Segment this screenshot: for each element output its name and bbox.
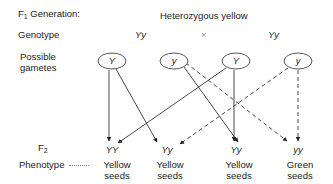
offspring-phenotype-2: Yellow seeds bbox=[225, 159, 252, 181]
offspring-phenotype-1: Yellow seeds bbox=[156, 159, 183, 181]
phenotype-1-line2: seeds bbox=[156, 170, 183, 181]
phenotype-3-line2: seeds bbox=[287, 170, 313, 181]
offspring-genotype-3: yy bbox=[293, 144, 303, 155]
offspring-phenotype-0: Yellow seeds bbox=[103, 159, 130, 181]
cross-diagram bbox=[0, 0, 333, 184]
phenotype-label: Phenotype bbox=[19, 159, 64, 170]
gamete-allele-1: y bbox=[172, 55, 177, 66]
phenotype-0-line2: seeds bbox=[103, 170, 130, 181]
arrow-g2-o0 bbox=[118, 68, 226, 143]
phenotype-leader-dots bbox=[69, 165, 89, 166]
gamete-allele-2: Y bbox=[233, 55, 239, 66]
phenotype-3-line1: Green bbox=[287, 159, 313, 170]
offspring-genotype-1: Yy bbox=[161, 144, 172, 155]
gamete-allele-0: Y bbox=[109, 55, 115, 66]
f2-label: F2 bbox=[38, 142, 48, 156]
arrow-g0-o1 bbox=[116, 69, 157, 142]
phenotype-1-line1: Yellow bbox=[156, 159, 183, 170]
phenotype-2-line2: seeds bbox=[225, 170, 252, 181]
phenotype-0-line1: Yellow bbox=[103, 159, 130, 170]
offspring-phenotype-3: Green seeds bbox=[287, 159, 313, 181]
offspring-genotype-2: Yy bbox=[230, 144, 241, 155]
f2-subscript: 2 bbox=[44, 147, 48, 154]
offspring-genotype-0: YY bbox=[106, 144, 119, 155]
gamete-allele-3: y bbox=[296, 55, 301, 66]
phenotype-2-line1: Yellow bbox=[225, 159, 252, 170]
